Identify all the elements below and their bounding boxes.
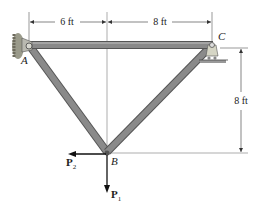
point-label-b: B bbox=[111, 155, 118, 167]
truss-diagram: 6 ft 8 ft 8 ft bbox=[0, 0, 262, 219]
force-p1-label: P1 bbox=[111, 188, 122, 203]
pin-support-a bbox=[22, 38, 32, 52]
point-label-a: A bbox=[20, 54, 28, 66]
dimension-right: 8 ft bbox=[108, 16, 211, 27]
force-p1-arrow bbox=[104, 155, 110, 193]
dimension-label-left: 6 ft bbox=[60, 16, 74, 27]
dimension-label-vertical: 8 ft bbox=[234, 95, 248, 106]
dimension-label-right: 8 ft bbox=[153, 16, 167, 27]
member-ab bbox=[29, 45, 107, 152]
force-p2-label: P2 bbox=[66, 156, 77, 171]
member-bc bbox=[107, 45, 212, 152]
force-p2-arrow bbox=[68, 151, 106, 157]
member-ac bbox=[29, 41, 213, 49]
joint-b bbox=[105, 151, 110, 156]
dimension-left: 6 ft bbox=[30, 16, 106, 27]
dimension-vertical: 8 ft bbox=[234, 49, 248, 152]
point-label-c: C bbox=[218, 30, 226, 42]
